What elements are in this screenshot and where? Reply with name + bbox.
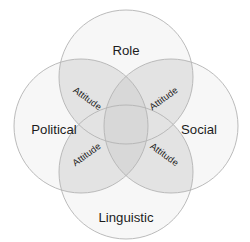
venn-diagram: Attitude Attitude Attitude Attitude Role… [0, 0, 250, 242]
set-label-social: Social [181, 122, 217, 137]
set-label-political: Political [31, 122, 77, 137]
set-label-linguistic: Linguistic [99, 210, 154, 225]
venn-diagram-canvas: Attitude Attitude Attitude Attitude Role… [0, 0, 250, 242]
set-label-role: Role [112, 43, 139, 58]
